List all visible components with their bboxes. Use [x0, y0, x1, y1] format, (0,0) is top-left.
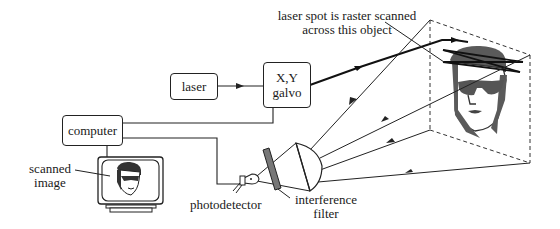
photodetector-label: photodetector [190, 198, 261, 212]
galvo-label-line2: galvo [273, 85, 302, 100]
laser-beam [310, 37, 468, 85]
ray-arrowheads [349, 97, 413, 173]
galvo-box: X,Y galvo [263, 62, 311, 108]
monitor-icon [98, 157, 163, 212]
laser-to-galvo-arrow [217, 83, 263, 89]
filter-label: interference filter [286, 193, 366, 221]
computer-to-galvo-wire [122, 108, 273, 123]
lens [296, 143, 322, 191]
galvo-label-line1: X,Y [276, 70, 298, 85]
object-label-line1: laser spot is raster scanned [262, 9, 432, 23]
photodetector-label-text: photodetector [190, 197, 261, 212]
object-label: laser spot is raster scanned across this… [262, 9, 432, 37]
laser-label: laser [182, 79, 207, 94]
laser-box: laser [170, 73, 218, 100]
object-label-line2: across this object [262, 23, 432, 37]
monitor-label: scanned image [25, 162, 75, 190]
filter-label-line1: interference [286, 193, 366, 207]
computer-box: computer [62, 115, 123, 146]
monitor-label-line1: scanned [25, 162, 75, 176]
monitor-label-line2: image [25, 176, 75, 190]
filter-label-line2: filter [286, 207, 366, 221]
computer-label: computer [68, 123, 117, 138]
